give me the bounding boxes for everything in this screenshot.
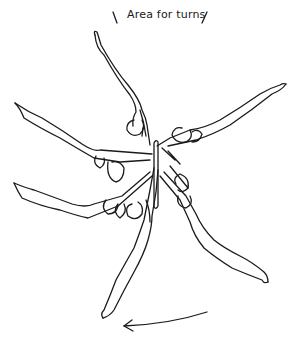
figure-6-lower-right [160,166,268,283]
figure-2-right [157,84,286,164]
turn-area-marker-left [113,12,117,23]
figure-5-bottom [102,168,158,318]
figure-3-upper-left [15,103,152,182]
figure-1-top [94,31,150,145]
rotation-arrow [124,312,207,331]
figure-4-left [14,172,152,218]
turns-diagram: Area for turns [0,0,297,339]
diagram-drawing [0,0,297,339]
turn-area-marker-right [202,12,207,23]
